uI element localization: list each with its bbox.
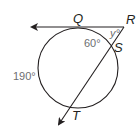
arc-QS-measure: 60° [84, 37, 101, 49]
label-S: S [114, 40, 123, 55]
arc-QT-measure: 190° [13, 70, 36, 82]
geometry-diagram: Q R S T 60° 190° y° [0, 0, 140, 136]
circle-figure: Q R S T 60° 190° y° [0, 0, 140, 136]
label-Q: Q [73, 11, 83, 26]
label-T: T [72, 108, 81, 123]
label-R: R [126, 12, 135, 27]
angle-R-measure: y° [109, 27, 121, 39]
